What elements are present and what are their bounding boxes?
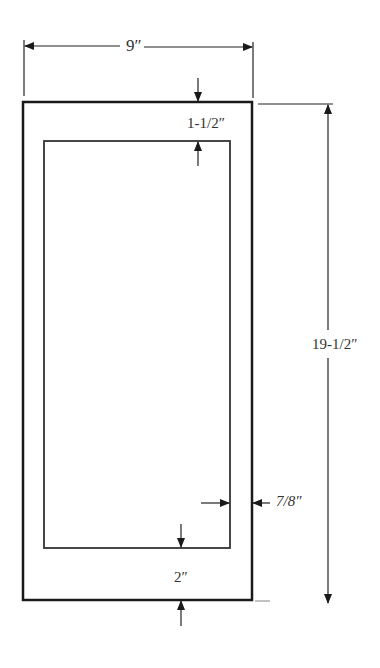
bottom-margin-label: 2″	[174, 569, 188, 586]
outer-frame	[23, 102, 252, 600]
side-margin-label: 7/8″	[276, 493, 301, 510]
height-label: 19-1/2″	[312, 334, 357, 355]
top-margin-label: 1-1/2″	[187, 115, 225, 132]
inner-opening	[44, 141, 230, 548]
width-label: 9″	[124, 36, 144, 56]
